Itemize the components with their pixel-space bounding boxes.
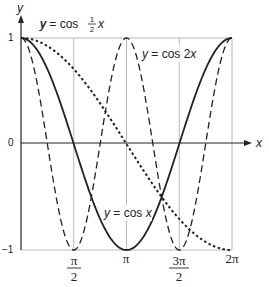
y-axis-arrow-icon: [18, 15, 24, 23]
label-cos-half-x: y y = cos 1 2 x: [38, 14, 118, 34]
x-axis-label: x: [255, 136, 263, 150]
x-axis-arrow-icon: [244, 140, 252, 146]
svg-text:2: 2: [90, 25, 95, 34]
annotations: y y = cos 1 2 x y = cos 2x y = cos x: [38, 14, 198, 221]
svg-text:y = cos: y = cos: [39, 17, 78, 31]
x-tick-labels: π 2 π 3π 2 2π: [67, 251, 239, 284]
y-axis-label: y: [16, 1, 24, 15]
svg-text:2: 2: [176, 269, 183, 284]
label-cos-2x: y = cos 2x: [140, 45, 198, 62]
y-tick-label-1: 1: [8, 32, 14, 43]
svg-text:x: x: [97, 17, 105, 31]
svg-text:2: 2: [71, 269, 78, 284]
x-tick-3pi-over-2: 3π 2: [169, 253, 189, 284]
x-tick-pi-over-2: π 2: [67, 253, 81, 284]
y-tick-label-neg1: −1: [2, 244, 14, 255]
svg-text:y = cos 2x: y = cos 2x: [141, 47, 197, 61]
x-tick-2pi: 2π: [225, 251, 239, 266]
svg-text:π: π: [71, 253, 78, 268]
y-tick-label-0: 0: [8, 137, 14, 148]
y-tick-labels: 1 0 −1: [2, 32, 14, 255]
cosine-chart: x y 1 0 −1 π 2 π 3π 2 2π y y = cos 1: [0, 0, 269, 287]
svg-text:1: 1: [90, 15, 95, 24]
x-tick-pi: π: [123, 251, 130, 266]
svg-text:3π: 3π: [172, 253, 186, 268]
svg-text:y = cos x: y = cos x: [103, 206, 153, 220]
label-cos-x: y = cos x: [102, 205, 153, 221]
